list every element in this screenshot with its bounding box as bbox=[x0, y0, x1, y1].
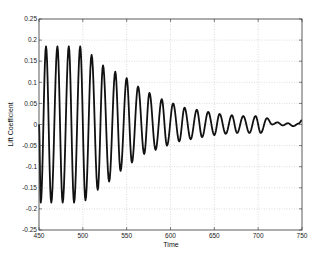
y-axis-tick-labels: -0.25-0.2-0.15-0.1-0.0500.050.10.150.20.… bbox=[22, 15, 37, 233]
y-tick-label: -0.2 bbox=[26, 205, 38, 212]
x-tick-label: 650 bbox=[209, 232, 220, 239]
x-tick-label: 750 bbox=[297, 232, 308, 239]
y-tick-label: 0.05 bbox=[24, 100, 37, 107]
x-axis-label: Time bbox=[163, 241, 178, 248]
x-tick-label: 500 bbox=[77, 232, 88, 239]
y-tick-label: -0.1 bbox=[26, 163, 38, 170]
x-axis-tick-labels: 450500550600650700750 bbox=[34, 232, 308, 239]
y-tick-label: -0.25 bbox=[22, 226, 37, 233]
x-tick-label: 550 bbox=[121, 232, 132, 239]
y-axis-label: Lift Coefficient bbox=[7, 102, 14, 146]
lift-coefficient-chart: 450500550600650700750 -0.25-0.2-0.15-0.1… bbox=[0, 0, 322, 258]
y-tick-label: 0.15 bbox=[24, 57, 37, 64]
y-tick-label: 0.2 bbox=[28, 36, 37, 43]
x-tick-label: 600 bbox=[165, 232, 176, 239]
y-tick-label: -0.15 bbox=[22, 184, 37, 191]
y-tick-label: 0 bbox=[33, 121, 37, 128]
x-tick-label: 700 bbox=[253, 232, 264, 239]
y-tick-label: -0.05 bbox=[22, 142, 37, 149]
y-tick-label: 0.25 bbox=[24, 15, 37, 22]
y-tick-label: 0.1 bbox=[28, 79, 37, 86]
